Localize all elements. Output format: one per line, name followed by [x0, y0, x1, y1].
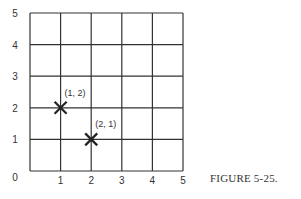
x-tick-label: 2 [88, 175, 94, 186]
x-tick-label: 5 [180, 175, 186, 186]
x-tick-label: 3 [119, 175, 125, 186]
y-tick-label: 3 [12, 71, 18, 82]
y-tick-label: 5 [12, 8, 18, 19]
grid [30, 13, 183, 171]
y-tick-label: 0 [12, 172, 18, 183]
y-tick-label: 4 [12, 40, 18, 51]
point-label: (1, 2) [65, 88, 86, 98]
chart-area: 012345 12345 (1, 2)(2, 1) [0, 0, 301, 199]
point-label: (2, 1) [95, 119, 116, 129]
y-tick-label: 2 [12, 103, 18, 114]
x-tick-label: 1 [58, 175, 64, 186]
x-tick-labels: 12345 [58, 175, 186, 186]
figure-caption: FIGURE 5-25. [210, 172, 278, 184]
y-tick-labels: 012345 [12, 8, 18, 183]
y-tick-label: 1 [12, 134, 18, 145]
x-tick-label: 4 [150, 175, 156, 186]
data-points: (1, 2)(2, 1) [55, 88, 117, 146]
